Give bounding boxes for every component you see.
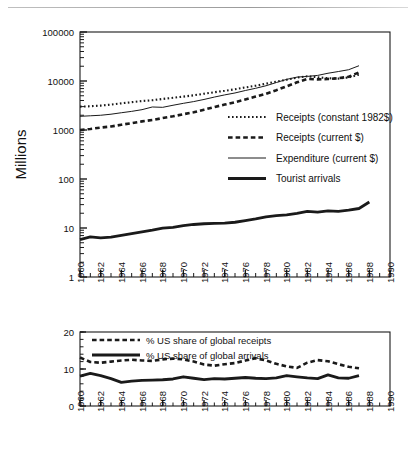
legend-label-0: % US share of global receipts — [146, 335, 271, 346]
x-tick-label: 1988 — [364, 262, 375, 283]
x-tick-label: 1976 — [240, 391, 251, 412]
x-tick-label: 1988 — [364, 391, 375, 412]
y-tick-label: 1 — [69, 272, 74, 283]
y-tick-label: 10000 — [48, 76, 74, 87]
x-tick-label: 1974 — [219, 391, 230, 412]
x-tick-label: 1968 — [157, 391, 168, 412]
legend-label-1: Receipts (current $) — [276, 132, 364, 143]
x-tick-label: 1966 — [137, 262, 148, 283]
x-tick-label: 1964 — [116, 262, 127, 283]
bottom-chart-panel: 0102019601962196419661968197019721974197… — [0, 318, 415, 461]
x-tick-label: 1962 — [95, 262, 106, 283]
y-tick-label: 100 — [58, 174, 74, 185]
x-tick-label: 1980 — [281, 391, 292, 412]
x-tick-label: 1984 — [323, 391, 334, 412]
x-tick-label: 1982 — [302, 262, 313, 283]
x-tick-label: 1968 — [157, 262, 168, 283]
legend-label-0: Receipts (constant 1982$) — [276, 112, 393, 123]
x-tick-label: 1970 — [178, 391, 189, 412]
y-tick-label: 20 — [63, 327, 74, 338]
x-tick-label: 1976 — [240, 262, 251, 283]
x-tick-label: 1974 — [219, 262, 230, 283]
x-tick-label: 1978 — [261, 391, 272, 412]
x-tick-label: 1980 — [281, 262, 292, 283]
x-tick-label: 1972 — [199, 262, 210, 283]
series-line-3 — [80, 202, 369, 240]
y-tick-label: 10 — [63, 223, 74, 234]
tourism-figure: 1101001000100001000001960196219641966196… — [0, 0, 415, 461]
y-axis-title: Millions — [12, 129, 29, 179]
x-tick-label: 1970 — [178, 262, 189, 283]
x-tick-label: 1982 — [302, 391, 313, 412]
legend-label-1: % US share of global arrivals — [146, 350, 269, 361]
y-tick-label: 10 — [63, 364, 74, 375]
x-tick-label: 1978 — [261, 262, 272, 283]
series-line-1 — [80, 373, 359, 382]
x-tick-label: 1986 — [343, 391, 354, 412]
x-tick-label: 1990 — [385, 391, 396, 412]
x-tick-label: 1966 — [137, 391, 148, 412]
x-tick-label: 1964 — [116, 391, 127, 412]
x-tick-label: 1984 — [323, 262, 334, 283]
x-tick-label: 1990 — [385, 262, 396, 283]
legend-label-2: Expenditure (current $) — [276, 153, 378, 164]
legend-label-3: Tourist arrivals — [276, 173, 340, 184]
x-tick-label: 1962 — [95, 391, 106, 412]
x-tick-label: 1986 — [343, 262, 354, 283]
x-tick-label: 1972 — [199, 391, 210, 412]
x-tick-label: 1960 — [75, 391, 86, 412]
y-tick-label: 1000 — [53, 125, 74, 136]
top-chart-panel: 1101001000100001000001960196219641966196… — [0, 0, 415, 320]
y-tick-label: 100000 — [42, 27, 74, 38]
x-tick-label: 1960 — [75, 262, 86, 283]
y-tick-label: 0 — [69, 401, 74, 412]
